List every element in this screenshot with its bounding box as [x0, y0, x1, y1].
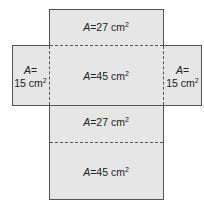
label-bottom: A=27 cm2	[49, 116, 163, 129]
label-front: A=45 cm2	[49, 70, 163, 83]
label-right: A=15 cm2	[164, 64, 201, 90]
label-back: A=45 cm2	[49, 166, 163, 179]
fold-line	[50, 105, 163, 106]
fold-line	[50, 45, 163, 46]
fold-line	[50, 142, 163, 143]
label-top: A=27 cm2	[49, 21, 163, 34]
label-left: A=15 cm2	[12, 64, 49, 90]
